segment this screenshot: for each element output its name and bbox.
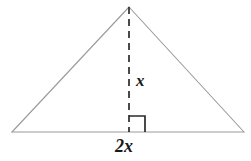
height-label: x: [136, 72, 145, 89]
triangle-left-side: [12, 7, 129, 132]
right-angle-marker-icon: [129, 116, 145, 132]
base-label: 2x: [115, 137, 133, 155]
geometry-diagram: x 2x: [0, 0, 251, 161]
triangle-right-side: [129, 7, 244, 132]
